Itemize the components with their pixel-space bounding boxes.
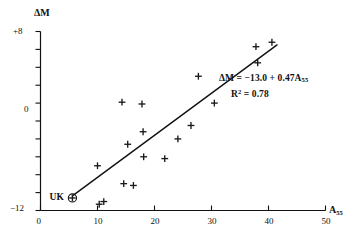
x-tick-label: 10: [94, 216, 103, 226]
scatter-plot-figure: ΔM +8 0 −12 A55 UK ΔM = −13.0 + 0.47A55 …: [0, 0, 347, 245]
data-point: [124, 141, 131, 148]
equation-subscript: 55: [302, 76, 309, 83]
x-tick-label: 50: [322, 216, 331, 226]
x-axis-title-subscript: 55: [336, 209, 343, 216]
x-tick-label: 30: [208, 216, 217, 226]
y-axis-ticks: [36, 32, 41, 211]
data-point: [161, 155, 168, 162]
r-squared-symbol: R: [231, 89, 238, 99]
y-axis-title: ΔM: [34, 8, 50, 18]
r-squared-text: R2 = 0.78: [231, 89, 269, 100]
regression-equation-text: ΔM = −13.0 + 0.47A55: [219, 74, 308, 84]
y-tick-label-top: +8: [13, 27, 23, 36]
x-axis-title: A55: [329, 205, 343, 217]
equation-body: ΔM = −13.0 + 0.47A: [219, 73, 302, 83]
data-point: [130, 182, 137, 189]
regression-line-group: [72, 45, 277, 196]
data-point: [188, 122, 195, 129]
data-point: [139, 101, 146, 108]
x-tick-label: 40: [265, 216, 274, 226]
data-point: [120, 180, 127, 187]
data-point: [119, 99, 126, 106]
r-squared-value: = 0.78: [241, 89, 269, 99]
data-point: [211, 100, 218, 107]
y-tick-label-bottom: −12: [10, 204, 24, 213]
data-point: [269, 39, 276, 46]
x-tick-label: 0: [37, 216, 42, 226]
data-point: [140, 153, 147, 160]
data-point-markers: [94, 39, 275, 208]
data-point: [253, 43, 260, 50]
uk-highlight-marker: [68, 194, 76, 202]
x-axis-ticks: [41, 206, 326, 211]
axis-lines: [41, 32, 326, 211]
data-point: [94, 162, 101, 169]
x-tick-label: 20: [151, 216, 160, 226]
y-tick-label-zero: 0: [24, 105, 29, 114]
data-point: [174, 136, 181, 143]
data-point: [195, 73, 202, 80]
uk-point-label: UK: [49, 193, 64, 203]
regression-line: [72, 45, 277, 196]
plot-canvas: [0, 0, 347, 245]
data-point: [140, 128, 147, 135]
